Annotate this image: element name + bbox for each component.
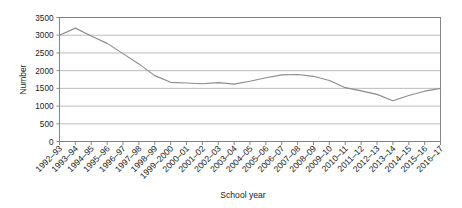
y-tick-label: 2000: [35, 67, 54, 76]
y-tick-label: 3500: [35, 14, 54, 23]
plot-area-border: [60, 18, 441, 142]
y-tick-label: 500: [40, 120, 54, 129]
x-axis-labels: 1992–931993–941994–951995–961996–971997–…: [33, 142, 445, 181]
y-tick-label: 3000: [35, 31, 54, 40]
y-tick-label: 0: [49, 138, 54, 147]
line-chart-figure: 05001000150020002500300035001992–931993–…: [0, 0, 462, 208]
y-gridlines: 0500100015002000250030003500: [35, 14, 440, 147]
y-tick-label: 1500: [35, 84, 54, 93]
y-axis-title: Number: [18, 64, 28, 94]
chart-canvas: 05001000150020002500300035001992–931993–…: [0, 0, 462, 208]
x-axis-title: School year: [220, 190, 266, 200]
y-tick-label: 2500: [35, 49, 54, 58]
data-series-line: [60, 28, 441, 101]
y-tick-label: 1000: [35, 102, 54, 111]
